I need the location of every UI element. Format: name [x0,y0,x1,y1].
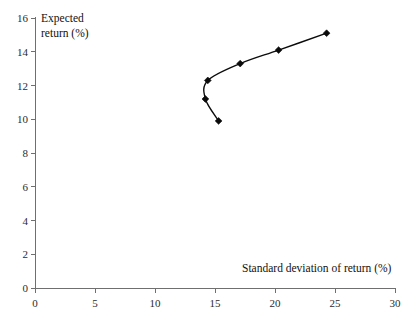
x-tick-label: 30 [390,297,402,309]
y-tick-label: 8 [23,147,29,159]
y-tick-label: 12 [17,80,28,92]
y-tick-label: 6 [23,181,29,193]
x-tick-label: 25 [330,297,342,309]
x-tick-label: 10 [150,297,162,309]
scatter-line-chart: 0246810121416 051015202530 Standard devi… [0,0,412,320]
y-tick-label: 10 [17,113,29,125]
x-axis-title: Standard deviation of return (%) [242,262,392,275]
y-tick-label: 0 [23,282,29,294]
x-tick-label: 0 [32,297,38,309]
y-axis-title-line1: Expected [41,12,84,25]
y-tick-label: 16 [17,12,29,24]
y-tick-label: 14 [17,46,29,58]
y-axis-title-line2: return (%) [41,27,89,40]
x-tick-label: 20 [270,297,282,309]
y-tick-label: 4 [23,215,29,227]
x-tick-label: 5 [92,297,98,309]
chart-container: 0246810121416 051015202530 Standard devi… [0,0,412,320]
y-tick-label: 2 [23,248,29,260]
x-tick-label: 15 [210,297,222,309]
